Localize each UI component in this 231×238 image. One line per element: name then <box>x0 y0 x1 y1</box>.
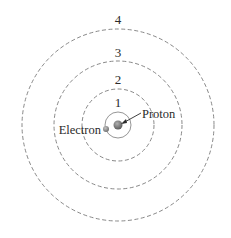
electron <box>103 126 109 132</box>
electron-label: Electron <box>59 123 102 137</box>
orbit-label-1: 1 <box>115 95 122 110</box>
arrow-head-icon <box>121 119 127 124</box>
proton-label: Proton <box>142 107 176 121</box>
orbit-label-2: 2 <box>115 72 122 87</box>
atom-diagram: 4 3 2 1 Proton Electron <box>0 0 231 238</box>
proton <box>114 121 123 130</box>
orbit-label-4: 4 <box>115 12 122 27</box>
orbit-label-3: 3 <box>115 45 122 60</box>
